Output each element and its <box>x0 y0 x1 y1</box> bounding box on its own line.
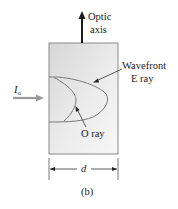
optic-axis-arrow-icon <box>79 11 86 43</box>
optic-axis-label-line1: Optic <box>88 11 111 22</box>
incident-intensity-label: Io <box>14 84 21 99</box>
wavefront-label-line2: E ray <box>131 73 153 84</box>
figure-caption: (b) <box>81 186 93 197</box>
birefringent-crystal-diagram <box>0 0 178 209</box>
o-ray-label: O ray <box>81 128 105 139</box>
optic-axis-label-line2: axis <box>90 24 107 35</box>
thickness-label: d <box>81 163 86 174</box>
wavefront-label-line1: Wavefront <box>122 60 166 71</box>
incident-subscript: o <box>18 89 22 97</box>
